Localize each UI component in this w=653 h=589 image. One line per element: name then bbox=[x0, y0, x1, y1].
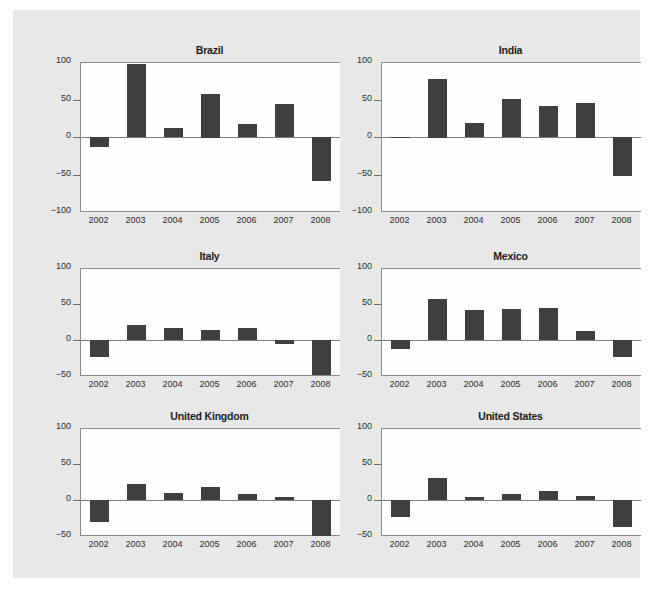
bar bbox=[201, 487, 220, 500]
axis-frame-top bbox=[81, 62, 340, 63]
x-axis-tick-label: 2008 bbox=[302, 539, 339, 549]
bar bbox=[428, 478, 447, 500]
y-axis-tick-mark bbox=[374, 175, 381, 176]
y-axis-tick-label: 0 bbox=[367, 493, 372, 503]
zero-line bbox=[81, 340, 340, 341]
bar bbox=[391, 500, 410, 517]
panel-title: Italy bbox=[80, 250, 339, 262]
y-axis: 100500−50 bbox=[40, 268, 80, 376]
x-axis-tick-label: 2008 bbox=[302, 379, 339, 389]
bar bbox=[465, 310, 484, 340]
x-axis-labels: 2002200320042005200620072008 bbox=[381, 212, 640, 228]
plot-area bbox=[80, 268, 340, 376]
y-axis-tick-label: 100 bbox=[357, 55, 372, 65]
bar bbox=[275, 104, 294, 137]
x-axis-tick-label: 2008 bbox=[603, 379, 640, 389]
bar bbox=[275, 497, 294, 500]
bar bbox=[312, 137, 331, 181]
y-axis-tick-mark bbox=[73, 304, 80, 305]
x-axis-labels: 2002200320042005200620072008 bbox=[80, 376, 339, 392]
y-axis-tick-mark bbox=[73, 100, 80, 101]
plot-wrap: 100500−50 bbox=[40, 428, 339, 536]
y-axis-tick-label: 50 bbox=[61, 457, 71, 467]
y-axis-tick-label: −100 bbox=[352, 205, 372, 215]
bar bbox=[127, 484, 146, 500]
x-axis-tick-label: 2005 bbox=[492, 379, 529, 389]
bar bbox=[502, 99, 521, 137]
y-axis-tick-label: −50 bbox=[357, 529, 372, 539]
x-axis-tick-label: 2005 bbox=[191, 539, 228, 549]
bar bbox=[391, 340, 410, 349]
x-axis-tick-label: 2005 bbox=[492, 539, 529, 549]
y-axis-tick-mark bbox=[374, 137, 381, 138]
bar bbox=[312, 340, 331, 375]
x-axis-tick-label: 2004 bbox=[154, 215, 191, 225]
bar bbox=[576, 496, 595, 500]
y-axis-tick-label: 0 bbox=[66, 333, 71, 343]
y-axis-tick-label: 0 bbox=[66, 493, 71, 503]
axis-frame-top bbox=[382, 268, 641, 269]
y-axis-tick-mark bbox=[374, 304, 381, 305]
x-axis-tick-label: 2008 bbox=[302, 215, 339, 225]
bar bbox=[275, 340, 294, 344]
small-multiples-grid: Brazil100500−50−100200220032004200520062… bbox=[13, 10, 640, 578]
x-axis-labels: 2002200320042005200620072008 bbox=[381, 376, 640, 392]
bar bbox=[127, 64, 146, 137]
y-axis-tick-label: 100 bbox=[56, 261, 71, 271]
x-axis-labels: 2002200320042005200620072008 bbox=[80, 536, 339, 552]
axis-frame-top bbox=[382, 62, 641, 63]
x-axis-tick-label: 2002 bbox=[80, 539, 117, 549]
y-axis-tick-label: 50 bbox=[362, 457, 372, 467]
x-axis-tick-label: 2006 bbox=[529, 215, 566, 225]
plot-area bbox=[80, 62, 340, 212]
x-axis-tick-label: 2005 bbox=[492, 215, 529, 225]
chart-panel-brazil: Brazil100500−50−100200220032004200520062… bbox=[40, 44, 339, 230]
x-axis-tick-label: 2008 bbox=[603, 215, 640, 225]
bar bbox=[164, 328, 183, 340]
chart-panel-italy: Italy100500−5020022003200420052006200720… bbox=[40, 250, 339, 394]
y-axis-tick-label: −50 bbox=[357, 369, 372, 379]
x-axis-tick-label: 2004 bbox=[154, 539, 191, 549]
x-axis-tick-label: 2002 bbox=[381, 379, 418, 389]
figure-page: Brazil100500−50−100200220032004200520062… bbox=[13, 10, 640, 578]
x-axis-tick-label: 2007 bbox=[265, 215, 302, 225]
x-axis-labels: 2002200320042005200620072008 bbox=[80, 212, 339, 228]
y-axis-tick-label: −50 bbox=[357, 168, 372, 178]
y-axis-tick-mark bbox=[73, 340, 80, 341]
bar bbox=[238, 124, 257, 137]
bar bbox=[576, 331, 595, 340]
bar bbox=[90, 340, 109, 357]
bar bbox=[312, 500, 331, 536]
y-axis-tick-label: 50 bbox=[61, 297, 71, 307]
panel-title: United Kingdom bbox=[80, 410, 339, 422]
x-axis-tick-label: 2007 bbox=[265, 539, 302, 549]
bar bbox=[201, 94, 220, 138]
x-axis-tick-label: 2004 bbox=[455, 215, 492, 225]
panel-title: India bbox=[381, 44, 640, 56]
x-axis-tick-label: 2008 bbox=[603, 539, 640, 549]
plot-wrap: 100500−50 bbox=[40, 268, 339, 376]
axis-frame-top bbox=[81, 428, 340, 429]
chart-panel-united-kingdom: United Kingdom100500−5020022003200420052… bbox=[40, 410, 339, 554]
axis-frame-top bbox=[382, 428, 641, 429]
zero-line bbox=[382, 137, 641, 138]
panel-title: Brazil bbox=[80, 44, 339, 56]
bar bbox=[90, 137, 109, 147]
x-axis-tick-label: 2004 bbox=[455, 379, 492, 389]
x-axis-tick-label: 2002 bbox=[381, 215, 418, 225]
x-axis-tick-label: 2004 bbox=[154, 379, 191, 389]
y-axis-tick-mark bbox=[73, 500, 80, 501]
y-axis-tick-label: −100 bbox=[51, 205, 71, 215]
plot-wrap: 100500−50−100 bbox=[40, 62, 339, 212]
bar bbox=[465, 497, 484, 500]
bar bbox=[465, 123, 484, 137]
x-axis-tick-label: 2003 bbox=[117, 539, 154, 549]
x-axis-tick-label: 2007 bbox=[265, 379, 302, 389]
plot-wrap: 100500−50 bbox=[341, 268, 640, 376]
x-axis-labels: 2002200320042005200620072008 bbox=[381, 536, 640, 552]
bar bbox=[502, 309, 521, 340]
bar bbox=[539, 106, 558, 137]
y-axis: 100500−50−100 bbox=[40, 62, 80, 212]
panel-title: United States bbox=[381, 410, 640, 422]
x-axis-tick-label: 2007 bbox=[566, 379, 603, 389]
